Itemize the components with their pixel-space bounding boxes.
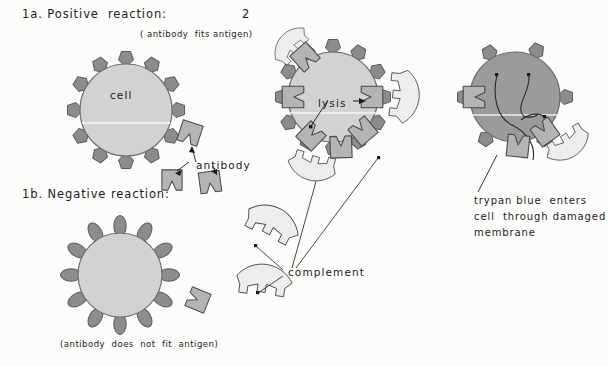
free-antibody-lower-right: [198, 170, 222, 194]
immunology-diagram: 1a. Positive reaction: 2 ( antibody fits…: [0, 0, 608, 366]
caption-trypan-line-1: trypan blue enters: [474, 193, 587, 209]
trypan-caption-leader: [478, 155, 497, 192]
label-lysis: lysis: [318, 96, 347, 111]
free-antibody-upper: [177, 120, 203, 146]
diagram-canvas: [0, 0, 608, 366]
page-number: 2: [242, 6, 250, 23]
caption-antibody-fits-antigen: ( antibody fits antigen): [140, 28, 253, 40]
free-antibody-negative-panel: [185, 287, 211, 313]
label-cell: cell: [110, 88, 132, 103]
negative-cell-body: [78, 233, 162, 317]
negative-reaction-cell-group: [61, 216, 180, 335]
free-complement-upper: [241, 196, 305, 250]
label-antibody: antibody: [196, 158, 251, 173]
caption-trypan-line-3: membrane: [474, 225, 536, 241]
heading-negative-reaction: 1b. Negative reaction:: [22, 186, 170, 203]
label-complement: complement: [288, 265, 365, 280]
free-complement-lower: [235, 261, 295, 300]
positive-cell-body: [80, 64, 172, 156]
positive-reaction-cell-group: [68, 52, 185, 169]
stained-cell-group: [458, 42, 595, 168]
heading-positive-reaction: 1a. Positive reaction:: [22, 6, 167, 23]
caption-antibody-does-not-fit-antigen: (antibody does not fit antigen): [60, 338, 218, 350]
caption-trypan-line-2: cell through damaged: [474, 209, 606, 225]
